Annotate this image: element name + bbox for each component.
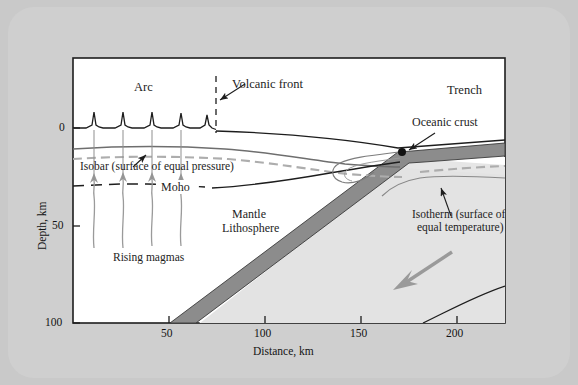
oceanic-crust-marker <box>398 148 406 156</box>
label-mantle: Mantle <box>232 207 266 221</box>
label-moho: Moho <box>159 180 192 194</box>
label-trench: Trench <box>447 83 482 98</box>
label-isotherm-line1: Isotherm (surface of <box>412 208 505 222</box>
y-tick-50: 50 <box>52 219 64 231</box>
y-axis-title: Depth, km <box>36 201 48 250</box>
label-isotherm-line2: equal temperature) <box>417 221 504 235</box>
figure-page: Arc Volcanic front Trench Oceanic crust … <box>0 0 578 385</box>
cross-section-figure <box>0 0 578 385</box>
label-volcanic-front: Volcanic front <box>232 77 303 92</box>
label-arc: Arc <box>134 80 153 95</box>
y-tick-0: 0 <box>59 121 65 133</box>
label-isobar: Isobar (surface of equal pressure) <box>80 160 234 174</box>
label-rising-magmas: Rising magmas <box>113 251 184 265</box>
label-oceanic-crust: Oceanic crust <box>412 115 478 129</box>
x-tick-50: 50 <box>161 327 173 339</box>
x-tick-100: 100 <box>254 327 271 339</box>
x-tick-200: 200 <box>446 327 463 339</box>
x-tick-150: 150 <box>350 327 367 339</box>
y-tick-100: 100 <box>45 316 62 328</box>
label-lithosphere: Lithosphere <box>222 221 279 235</box>
x-axis-title: Distance, km <box>253 345 314 357</box>
